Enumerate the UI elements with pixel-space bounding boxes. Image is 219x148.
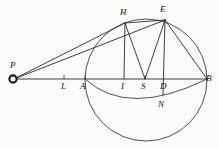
geometry-canvas [0,0,219,148]
point-p-marker [9,75,16,82]
geometry-figure: P L A I S D B H E N [0,0,219,148]
point-label-n: N [158,100,164,109]
segment-eb [165,20,207,79]
point-label-e: E [160,5,166,14]
segment-ph [14,23,125,79]
main-circle [85,19,207,141]
point-label-d: D [160,82,167,91]
segment-pe [14,20,165,79]
segment-hi [124,23,125,79]
point-label-p: P [10,61,16,70]
point-label-b: B [206,74,212,83]
segment-es [145,20,165,79]
point-label-s: S [141,82,146,91]
point-label-i: I [121,82,124,91]
arc-a-n-b [85,79,207,99]
point-label-h: H [120,8,127,17]
point-label-a: A [80,82,86,91]
point-label-l: L [61,82,66,91]
